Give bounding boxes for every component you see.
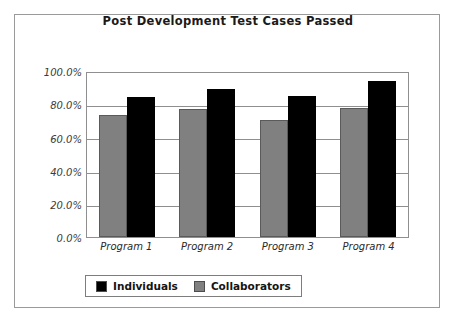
bar-collaborators-program-1[interactable]	[99, 115, 127, 238]
chart-legend: Individuals Collaborators	[85, 275, 302, 297]
y-tick-label-0: 0.0%	[24, 233, 82, 244]
y-tick-label-40: 40.0%	[24, 167, 82, 178]
bars-layer	[87, 73, 408, 237]
bar-collaborators-program-2[interactable]	[179, 109, 207, 237]
y-tick-label-60: 60.0%	[24, 134, 82, 145]
legend-label-individuals: Individuals	[113, 280, 178, 292]
bar-individuals-program-2[interactable]	[207, 89, 235, 237]
legend-item-collaborators[interactable]: Collaborators	[194, 280, 291, 292]
bar-group-program-4	[328, 73, 408, 237]
bar-group-program-2	[167, 73, 247, 237]
x-axis-label-group: Program 1 Program 2 Program 3 Program 4	[86, 241, 409, 252]
bar-group-program-1	[87, 73, 167, 237]
bar-individuals-program-4[interactable]	[368, 81, 396, 237]
x-tick-label-program-3: Program 3	[248, 241, 329, 252]
plot-area	[86, 72, 409, 238]
y-axis-label-group: 100.0% 80.0% 60.0% 40.0% 20.0% 0.0%	[20, 0, 82, 326]
y-tick-label-100: 100.0%	[24, 67, 82, 78]
legend-label-collaborators: Collaborators	[211, 280, 291, 292]
x-tick-label-program-4: Program 4	[328, 241, 409, 252]
bar-individuals-program-1[interactable]	[127, 97, 155, 237]
legend-item-individuals[interactable]: Individuals	[96, 280, 178, 292]
bar-collaborators-program-3[interactable]	[260, 120, 288, 237]
bar-collaborators-program-4[interactable]	[340, 108, 368, 237]
y-tick-label-20: 20.0%	[24, 200, 82, 211]
bar-group-program-3	[248, 73, 328, 237]
x-tick-label-program-1: Program 1	[86, 241, 167, 252]
x-tick-label-program-2: Program 2	[167, 241, 248, 252]
bar-individuals-program-3[interactable]	[288, 96, 316, 237]
legend-swatch-individuals-icon	[96, 281, 107, 292]
legend-swatch-collaborators-icon	[194, 281, 205, 292]
y-tick-label-80: 80.0%	[24, 100, 82, 111]
